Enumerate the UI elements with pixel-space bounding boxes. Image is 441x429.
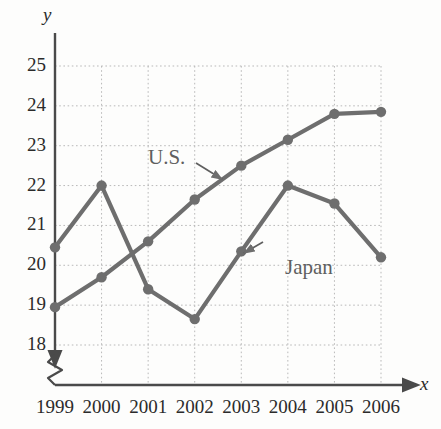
- data-point: [283, 180, 293, 190]
- data-point: [376, 107, 386, 117]
- y-tick-label-18: 18: [14, 333, 46, 355]
- series-annotation-japan: Japan: [285, 255, 333, 280]
- series-japan: [50, 180, 386, 324]
- data-point: [96, 272, 106, 282]
- y-tick-label-21: 21: [14, 213, 46, 235]
- series-us: [50, 107, 386, 313]
- data-point: [236, 160, 246, 170]
- data-point: [96, 180, 106, 190]
- x-tick-label-2006: 2006: [351, 396, 411, 418]
- y-tick-label-23: 23: [14, 134, 46, 156]
- data-point: [50, 302, 60, 312]
- data-point: [329, 198, 339, 208]
- data-point: [329, 109, 339, 119]
- data-series-layer: [50, 107, 386, 325]
- data-point: [283, 135, 293, 145]
- annotation-arrow-us: [196, 163, 223, 180]
- y-tick-label-22: 22: [14, 174, 46, 196]
- data-point: [143, 236, 153, 246]
- data-point: [376, 252, 386, 262]
- y-tick-label-25: 25: [14, 54, 46, 76]
- data-point: [50, 242, 60, 252]
- data-point: [190, 194, 200, 204]
- y-tick-label-20: 20: [14, 253, 46, 275]
- y-tick-label-24: 24: [14, 94, 46, 116]
- y-tick-label-19: 19: [14, 293, 46, 315]
- x-axis-label: x: [420, 373, 428, 395]
- axis-break-symbol: [48, 355, 62, 385]
- chart-canvas: [0, 0, 441, 429]
- y-axis-label: y: [43, 4, 51, 26]
- data-point: [190, 314, 200, 324]
- data-point: [236, 246, 246, 256]
- series-annotation-us: U.S.: [148, 145, 185, 170]
- data-point: [143, 284, 153, 294]
- line-chart-figure: 1819202122232425 19992000200120022003200…: [0, 0, 441, 429]
